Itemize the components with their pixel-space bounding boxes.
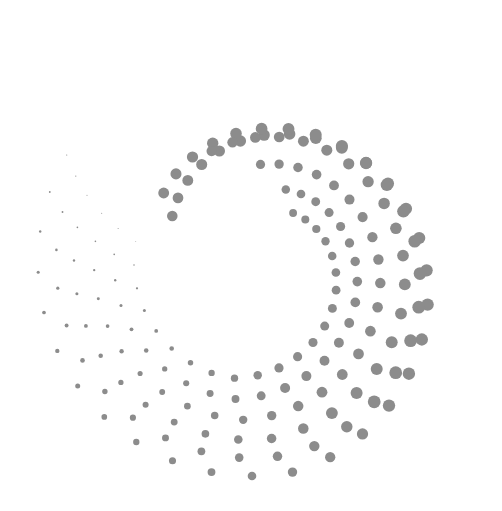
spiral-dot bbox=[280, 383, 290, 393]
spiral-dot bbox=[144, 348, 149, 353]
spiral-dot bbox=[93, 269, 95, 271]
spiral-dot bbox=[288, 467, 297, 476]
spiral-dot bbox=[208, 468, 216, 476]
spiral-dot bbox=[274, 363, 283, 372]
spiral-dot bbox=[414, 267, 427, 280]
spiral-dot bbox=[159, 389, 165, 395]
spiral-dot bbox=[337, 369, 348, 380]
spiral-dot bbox=[55, 249, 58, 252]
spiral-dot bbox=[239, 416, 247, 424]
spiral-dot bbox=[235, 453, 244, 462]
spiral-dot bbox=[301, 216, 309, 224]
spiral-dot bbox=[386, 336, 398, 348]
spiral-dot bbox=[297, 190, 306, 199]
spiral-dot bbox=[301, 371, 311, 381]
spiral-dot bbox=[257, 391, 266, 400]
spiral-dot bbox=[130, 415, 136, 421]
spiral-dot bbox=[310, 129, 322, 141]
spiral-dot bbox=[367, 232, 377, 242]
spiral-dot bbox=[351, 387, 363, 399]
spiral-dot bbox=[143, 309, 146, 312]
spiral-dot bbox=[336, 222, 345, 231]
spiral-dot bbox=[136, 287, 138, 289]
spiral-dot bbox=[329, 180, 339, 190]
spiral-dot bbox=[404, 334, 417, 347]
spiral-dot bbox=[273, 452, 282, 461]
spiral-dot bbox=[173, 193, 184, 204]
spiral-dot bbox=[289, 209, 297, 217]
spiral-dot bbox=[373, 254, 383, 264]
spiral-dot bbox=[378, 198, 389, 209]
spiral-dot bbox=[130, 327, 134, 331]
spiral-dot bbox=[184, 403, 191, 410]
spiral-dot bbox=[42, 311, 46, 315]
spiral-dot bbox=[101, 213, 102, 214]
spiral-dot bbox=[321, 237, 329, 245]
spiral-dot bbox=[283, 123, 295, 135]
spiral-dot bbox=[248, 472, 257, 481]
spiral-dot bbox=[336, 140, 348, 152]
spiral-dot bbox=[332, 286, 341, 295]
spiral-dot bbox=[274, 159, 283, 168]
spiral-dot bbox=[162, 366, 167, 371]
spiral-dot bbox=[234, 435, 243, 444]
spiral-dot bbox=[80, 358, 85, 363]
spiral-dot bbox=[98, 354, 103, 359]
spiral-dot bbox=[75, 176, 76, 177]
spiral-dot bbox=[390, 223, 402, 235]
spiral-dot bbox=[412, 301, 425, 314]
spiral-dot bbox=[383, 399, 395, 411]
spiral-dot bbox=[358, 212, 368, 222]
spiral-dot bbox=[102, 389, 107, 394]
spiral-dot bbox=[345, 238, 354, 247]
spiral-dot bbox=[162, 434, 169, 441]
spiral-dot bbox=[106, 324, 110, 328]
spiral-dot bbox=[311, 197, 320, 206]
spiral-dot bbox=[95, 240, 97, 242]
spiral-dot bbox=[317, 387, 328, 398]
spiral-dot bbox=[365, 326, 376, 337]
spiral-dot bbox=[325, 452, 335, 462]
spiral-dot bbox=[350, 257, 359, 266]
spiral-dot bbox=[326, 407, 338, 419]
spiral-dot bbox=[77, 226, 79, 228]
spiral-dot bbox=[344, 318, 354, 328]
spiral-dot bbox=[341, 421, 352, 432]
spiral-dot bbox=[207, 146, 217, 156]
spiral-dot bbox=[65, 324, 69, 328]
spiral-dot bbox=[73, 259, 75, 261]
spiral-dot bbox=[75, 292, 78, 295]
spiral-dot bbox=[198, 447, 206, 455]
spiral-dot bbox=[353, 349, 364, 360]
spiral-dot bbox=[416, 333, 428, 345]
spiral-dot bbox=[293, 163, 303, 173]
spiral-dot bbox=[372, 302, 383, 313]
spiral-dot bbox=[84, 324, 88, 328]
spiral-dot bbox=[113, 253, 115, 255]
spiral-dot bbox=[321, 145, 332, 156]
spiral-dot bbox=[343, 158, 354, 169]
halftone-dot-spiral bbox=[0, 0, 502, 511]
spiral-dot bbox=[375, 278, 386, 289]
spiral-dot bbox=[320, 356, 330, 366]
spiral-dot bbox=[170, 168, 181, 179]
spiral-dot bbox=[298, 423, 309, 434]
spiral-dot bbox=[211, 412, 218, 419]
spiral-dot bbox=[232, 395, 240, 403]
spiral-dot bbox=[371, 363, 383, 375]
spiral-dot bbox=[403, 368, 415, 380]
spiral-dot bbox=[75, 384, 80, 389]
spiral-dot bbox=[274, 132, 285, 143]
spiral-dot bbox=[267, 411, 276, 420]
spiral-dot bbox=[231, 375, 238, 382]
spiral-dot bbox=[312, 225, 320, 233]
spiral-dot bbox=[320, 322, 329, 331]
spiral-dot bbox=[133, 439, 139, 445]
spiral-dot bbox=[293, 401, 304, 412]
spiral-dot bbox=[368, 395, 381, 408]
spiral-dot bbox=[135, 241, 136, 242]
spiral-dot bbox=[360, 157, 372, 169]
spiral-dot bbox=[118, 228, 119, 229]
spiral-dot bbox=[101, 414, 107, 420]
spiral-dot bbox=[312, 170, 322, 180]
